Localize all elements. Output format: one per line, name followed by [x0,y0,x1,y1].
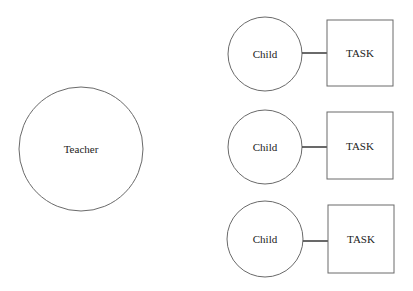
teacher-label: Teacher [64,143,99,155]
child-label: Child [253,48,278,60]
child-task-row-1: Child TASK [228,17,393,91]
child-label: Child [253,141,278,153]
task-label: TASK [346,47,374,59]
child-task-row-3: Child TASK [227,201,394,277]
child-label: Child [253,233,278,245]
task-label: TASK [346,140,374,152]
diagram-canvas: Teacher Child TASK Child TASK Child TASK [0,0,413,291]
task-label: TASK [347,233,375,245]
teacher-node: Teacher [19,87,143,211]
child-task-row-2: Child TASK [228,110,393,184]
